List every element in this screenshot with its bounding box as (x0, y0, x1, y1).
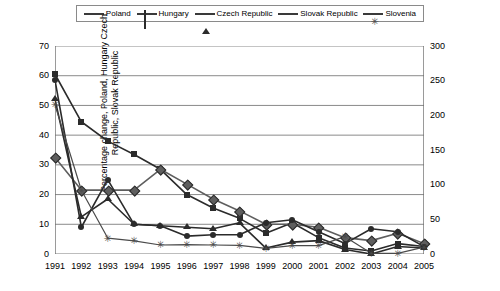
chart-legend: PolandHungaryCzech RepublicSlovak Republ… (76, 5, 424, 22)
legend-line (278, 13, 298, 15)
legend-item-hungary: Hungary (137, 9, 189, 19)
slovak-republic-point-marker (105, 177, 111, 183)
legend-swatch: ✳ (363, 9, 383, 19)
poland-point-marker (184, 192, 190, 198)
y-tick-label-right: 300 (430, 42, 460, 51)
czech-republic-point-marker (104, 195, 112, 201)
y-tick-label-left: 50 (23, 101, 49, 110)
poland-point-marker (78, 119, 84, 125)
x-tick-label: 2005 (406, 262, 442, 271)
slovenia-point-marker: ✳ (51, 100, 60, 109)
czech-republic-point-marker (183, 223, 191, 229)
poland-point-marker (210, 205, 216, 211)
slovak-republic-point-marker (289, 217, 295, 223)
y-tick-label-right: 200 (430, 111, 460, 120)
slovenia-point-marker: ✳ (235, 241, 244, 250)
czech-republic-point-marker (236, 219, 244, 225)
star-marker-icon: ✳ (370, 16, 378, 27)
y-tick-label-right: 0 (430, 250, 460, 259)
y-tick-label-left: 0 (23, 250, 49, 259)
y-tick-label-right: 150 (430, 146, 460, 155)
legend-item-slovak-republic: Slovak Republic (278, 9, 357, 19)
plot-area: ✳✳✳✳✳✳✳✳✳✳✳✳✳✳✳ (55, 46, 424, 254)
legend-symbol: ✳ (370, 11, 378, 29)
slovenia-point-marker: ✳ (420, 243, 429, 252)
triangle-marker-icon (202, 11, 210, 34)
legend-label: Hungary (159, 9, 189, 18)
legend-line (137, 13, 157, 15)
diamond-marker-icon (144, 10, 146, 29)
slovak-republic-point-marker (395, 229, 401, 235)
slovenia-point-marker: ✳ (103, 234, 112, 243)
poland-point-marker (263, 230, 269, 236)
chart-container: PolandHungaryCzech RepublicSlovak Republ… (0, 0, 500, 291)
legend-swatch (137, 9, 157, 19)
slovak-republic-point-marker (263, 220, 269, 226)
legend-swatch (278, 9, 298, 19)
slovenia-point-marker: ✳ (182, 240, 191, 249)
slovak-republic-point-marker (316, 229, 322, 235)
legend-symbol (202, 11, 210, 29)
slovak-republic-point-marker (210, 232, 216, 238)
legend-item-czech-republic: Czech Republic (195, 9, 273, 19)
y-tick-label-left: 60 (23, 71, 49, 80)
y-tick-label-left: 10 (23, 220, 49, 229)
czech-republic-point-marker (77, 213, 85, 219)
slovenia-point-marker: ✳ (130, 236, 139, 245)
slovenia-point-marker: ✳ (393, 249, 402, 258)
slovenia-point-marker: ✳ (156, 240, 165, 249)
slovenia-point-marker: ✳ (340, 232, 349, 241)
slovenia-point-marker: ✳ (209, 240, 218, 249)
y-tick-label-left: 70 (23, 42, 49, 51)
legend-label: Slovenia (385, 9, 416, 18)
legend-symbol (144, 11, 146, 29)
legend-swatch (195, 9, 215, 19)
slovenia-point-marker: ✳ (314, 241, 323, 250)
poland-point-marker (105, 138, 111, 144)
slovenia-point-marker: ✳ (77, 186, 86, 195)
legend-label: Slovak Republic (300, 9, 357, 18)
y-tick-label-left: 20 (23, 190, 49, 199)
y-tick-label-right: 100 (430, 180, 460, 189)
slovenia-point-marker: ✳ (261, 244, 270, 253)
legend-label: Czech Republic (217, 9, 273, 18)
y-tick-label-left: 30 (23, 160, 49, 169)
slovak-republic-point-marker (368, 226, 374, 232)
slovak-republic-point-marker (237, 232, 243, 238)
czech-republic-point-marker (209, 225, 217, 231)
y-tick-label-right: 50 (430, 215, 460, 224)
slovenia-point-marker: ✳ (367, 249, 376, 258)
slovenia-point-marker: ✳ (288, 241, 297, 250)
poland-point-marker (131, 151, 137, 157)
legend-item-slovenia: ✳Slovenia (363, 9, 416, 19)
y-tick-label-right: 250 (430, 76, 460, 85)
y-tick-label-left: 40 (23, 131, 49, 140)
